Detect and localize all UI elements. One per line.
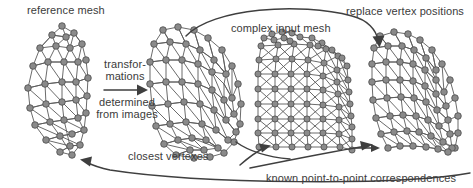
label-determined-from-images: determined from images bbox=[96, 96, 158, 120]
label-determined-line1: determined bbox=[99, 96, 155, 108]
label-transformations-line1: transfor- bbox=[104, 58, 146, 70]
label-reference-mesh: reference mesh bbox=[27, 4, 105, 16]
correspondences-arrow bbox=[250, 141, 373, 168]
label-transformations: transfor- mations bbox=[99, 58, 151, 82]
mesh-pipeline-figure: reference mesh transfor- mations determi… bbox=[0, 0, 473, 188]
label-closest-vertexes: closest vertexes bbox=[128, 150, 208, 162]
label-complex-input-mesh: complex input mesh bbox=[231, 22, 331, 34]
label-determined-line2: from images bbox=[96, 108, 158, 120]
transformation-arrow bbox=[104, 85, 148, 96]
label-transformations-line2: mations bbox=[105, 70, 144, 82]
label-known-correspondences: known point-to-point correspondences bbox=[266, 172, 456, 184]
label-replace-vertex-positions: replace vertex positions bbox=[346, 5, 464, 17]
